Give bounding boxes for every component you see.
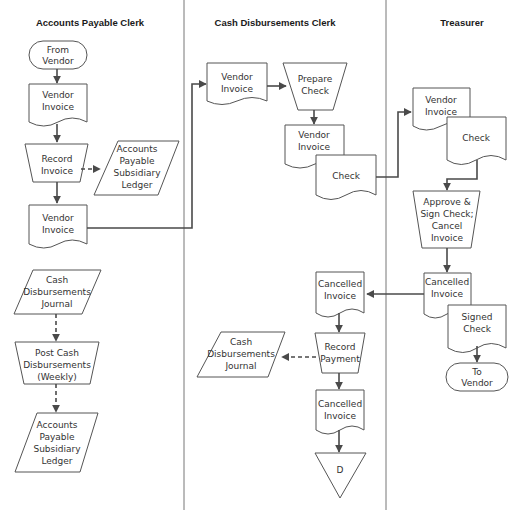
- document-cd-check: Check: [316, 155, 376, 200]
- svg-text:Invoice: Invoice: [298, 142, 331, 152]
- svg-text:Vendor: Vendor: [461, 378, 493, 388]
- svg-text:Accounts: Accounts: [36, 420, 77, 430]
- svg-text:Vendor: Vendor: [221, 72, 253, 82]
- svg-text:Vendor: Vendor: [425, 95, 457, 105]
- svg-text:Invoice: Invoice: [324, 411, 357, 421]
- svg-text:Cash: Cash: [46, 275, 68, 285]
- document-tr-check: Check: [447, 117, 506, 165]
- svg-text:Invoice: Invoice: [425, 107, 458, 117]
- svg-text:Cancelled: Cancelled: [425, 277, 469, 287]
- svg-text:Ledger: Ledger: [121, 180, 152, 190]
- offline-file-d: D: [315, 453, 366, 498]
- terminator-from-vendor: From Vendor: [29, 41, 87, 69]
- manual-operation-prepare-check: Prepare Check: [283, 63, 347, 110]
- manual-operation-record-invoice: Record Invoice: [25, 144, 88, 182]
- journal-cash-disbursements-ap: Cash Disbursements Journal: [14, 270, 101, 314]
- svg-text:Invoice: Invoice: [41, 166, 74, 176]
- svg-text:Invoice: Invoice: [324, 291, 357, 301]
- manual-operation-record-payment: Record Payment: [315, 333, 365, 373]
- document-cancelled-invoice-2: Cancelled Invoice: [316, 390, 364, 434]
- svg-text:Sign Check;: Sign Check;: [420, 209, 473, 219]
- document-cd-vendor-invoice: Vendor Invoice: [207, 63, 267, 105]
- svg-text:Cancel: Cancel: [432, 221, 463, 231]
- svg-text:Payable: Payable: [119, 156, 155, 166]
- manual-operation-approve-sign-check: Approve & Sign Check; Cancel Invoice: [413, 191, 480, 248]
- svg-text:Invoice: Invoice: [42, 102, 75, 112]
- svg-text:Ledger: Ledger: [41, 456, 72, 466]
- svg-text:Accounts: Accounts: [116, 144, 157, 154]
- lane-title-ap-clerk: Accounts Payable Clerk: [36, 17, 145, 28]
- svg-text:Payable: Payable: [39, 432, 75, 442]
- svg-text:To: To: [471, 367, 482, 377]
- svg-text:Cancelled: Cancelled: [318, 399, 362, 409]
- svg-text:Cash: Cash: [230, 337, 252, 347]
- flowchart: Accounts Payable Clerk Cash Disbursement…: [0, 0, 515, 517]
- svg-text:Record: Record: [324, 342, 355, 352]
- svg-text:Check: Check: [301, 86, 329, 96]
- svg-text:Record: Record: [41, 154, 72, 164]
- svg-text:(Weekly): (Weekly): [37, 372, 77, 382]
- svg-text:Invoice: Invoice: [42, 225, 75, 235]
- svg-text:Post Cash: Post Cash: [35, 348, 79, 358]
- svg-text:Vendor: Vendor: [42, 90, 74, 100]
- svg-text:Check: Check: [463, 324, 491, 334]
- svg-text:Invoice: Invoice: [431, 233, 464, 243]
- svg-text:From: From: [47, 45, 69, 55]
- ledger-ap-subsidiary-2: Accounts Payable Subsidiary Ledger: [15, 413, 98, 472]
- svg-text:Approve &: Approve &: [423, 197, 470, 207]
- svg-text:Disbursements: Disbursements: [207, 349, 275, 359]
- svg-text:Signed: Signed: [462, 312, 493, 322]
- svg-text:Journal: Journal: [40, 299, 72, 309]
- svg-text:Vendor: Vendor: [42, 56, 74, 66]
- svg-text:Vendor: Vendor: [42, 213, 74, 223]
- document-vendor-invoice-1: Vendor Invoice: [29, 84, 87, 126]
- svg-text:Invoice: Invoice: [221, 84, 254, 94]
- svg-text:Subsidiary: Subsidiary: [113, 168, 161, 178]
- svg-text:Payment: Payment: [320, 354, 360, 364]
- svg-text:D: D: [337, 465, 344, 475]
- svg-text:Check: Check: [462, 133, 490, 143]
- document-signed-check: Signed Check: [448, 305, 506, 353]
- svg-text:Cancelled: Cancelled: [318, 279, 362, 289]
- svg-text:Disbursements: Disbursements: [23, 287, 91, 297]
- lane-title-cd-clerk: Cash Disbursements Clerk: [215, 17, 337, 28]
- ledger-ap-subsidiary-1: Accounts Payable Subsidiary Ledger: [94, 141, 179, 195]
- svg-text:Vendor: Vendor: [298, 130, 330, 140]
- svg-text:Invoice: Invoice: [431, 289, 464, 299]
- svg-text:Journal: Journal: [224, 361, 256, 371]
- svg-text:Subsidiary: Subsidiary: [33, 444, 81, 454]
- terminator-to-vendor: To Vendor: [446, 363, 508, 391]
- manual-operation-post-cash-disbursements: Post Cash Disbursements (Weekly): [15, 342, 99, 384]
- lane-title-treasurer: Treasurer: [440, 17, 484, 28]
- document-cancelled-invoice-1: Cancelled Invoice: [316, 272, 364, 317]
- document-vendor-invoice-2: Vendor Invoice: [29, 205, 87, 248]
- svg-text:Disbursements: Disbursements: [23, 360, 91, 370]
- svg-text:Check: Check: [332, 171, 360, 181]
- journal-cash-disbursements-cd: Cash Disbursements Journal: [197, 332, 285, 377]
- svg-text:Prepare: Prepare: [298, 74, 333, 84]
